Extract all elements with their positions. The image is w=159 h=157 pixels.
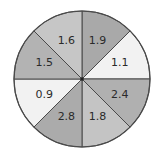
spinner: 1.9 1.1 2.4 1.8 2.8 0.9 1.5 1.6 xyxy=(0,0,159,157)
sector-label-4: 2.8 xyxy=(58,110,76,123)
sector-label-2: 2.4 xyxy=(111,88,129,101)
sector-label-5: 0.9 xyxy=(36,88,54,101)
sector-label-0: 1.9 xyxy=(89,34,107,47)
sector-label-3: 1.8 xyxy=(89,110,107,123)
spinner-center-dot xyxy=(80,77,84,81)
sector-label-6: 1.5 xyxy=(36,56,54,69)
sector-label-7: 1.6 xyxy=(58,34,76,47)
sector-label-1: 1.1 xyxy=(111,56,129,69)
